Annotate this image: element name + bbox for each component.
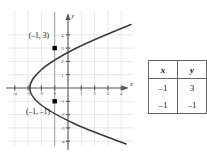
- y-axis-arrow-icon: [65, 14, 70, 20]
- table-header-row: x y: [149, 61, 207, 79]
- table-row: –1 3: [149, 79, 207, 97]
- point-label-upper: (–1, 3): [29, 31, 50, 40]
- x-axis-label: x: [129, 80, 133, 87]
- table-row: –1 –1: [149, 96, 207, 114]
- table-cell-x: –1: [149, 96, 178, 114]
- y-tick-label-3: 1: [61, 73, 64, 78]
- x-tick-label-5: 2: [93, 91, 96, 96]
- table-cell-y: –1: [178, 96, 207, 114]
- point-label-lower: (–1, –1): [26, 107, 51, 116]
- x-tick-label-0: -4: [13, 91, 17, 96]
- x-tick-label-6: 3: [107, 91, 110, 96]
- y-tick-label-1: 3: [61, 46, 64, 51]
- x-tick-label-7: 4: [120, 91, 123, 96]
- point-marker-lower: [53, 99, 57, 103]
- coordinate-plane: -4 -3 -2 -1 1 2 3 4 4 3 2 1 -1 -2 -3 -4 …: [0, 0, 140, 157]
- table-cell-x: –1: [149, 79, 178, 97]
- x-tick-label-2: -2: [40, 91, 44, 96]
- figure-root: -4 -3 -2 -1 1 2 3 4 4 3 2 1 -1 -2 -3 -4 …: [0, 0, 207, 157]
- x-tick-label-4: 1: [80, 91, 83, 96]
- value-table-wrapper: x y –1 3 –1 –1: [148, 60, 207, 114]
- table-cell-y: 3: [178, 79, 207, 97]
- graph-svg: -4 -3 -2 -1 1 2 3 4 4 3 2 1 -1 -2 -3 -4 …: [0, 0, 140, 157]
- x-axis-arrow-icon: [122, 85, 128, 90]
- y-axis-label: y: [71, 12, 75, 19]
- point-marker-upper: [53, 46, 57, 50]
- parabola-curve: [30, 25, 131, 145]
- table-header-x: x: [149, 61, 178, 79]
- value-table: x y –1 3 –1 –1: [148, 60, 207, 114]
- x-tick-label-3: -1: [53, 91, 57, 96]
- table-header-y: y: [178, 61, 207, 79]
